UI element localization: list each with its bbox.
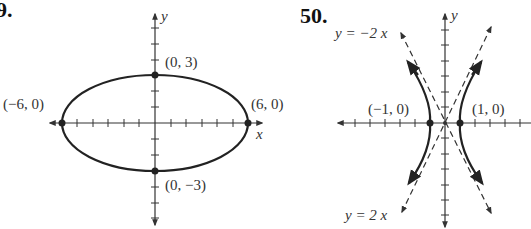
point-neg1-0 [427, 120, 434, 127]
origin-marker [443, 121, 447, 125]
point-0-3 [152, 72, 159, 79]
asymptote-label-neg2x: y = −2 x [333, 25, 388, 41]
point-neg6-0 [59, 120, 66, 127]
point-0-neg3 [152, 168, 159, 175]
figure-ellipse: 9. [0, 0, 284, 225]
figure-canvas: 9. [0, 0, 531, 229]
asymptote-label-2x: y = 2 x [343, 207, 388, 223]
label-neg1-0: (−1, 0) [368, 101, 409, 118]
label-6-0: (6, 0) [251, 96, 284, 113]
y-axis-label: y [159, 8, 168, 24]
label-neg6-0: (−6, 0) [3, 96, 44, 113]
label-0-3: (0, 3) [165, 54, 198, 71]
figure-hyperbola: 50. [300, 3, 531, 227]
figure-number: 50. [300, 3, 328, 28]
point-6-0 [245, 120, 252, 127]
point-1-0 [457, 120, 464, 127]
figure-number: 9. [0, 0, 13, 22]
y-axis-label: y [449, 7, 458, 23]
label-1-0: (1, 0) [472, 101, 505, 118]
label-0-neg3: (0, −3) [165, 177, 206, 194]
x-axis-label: x [255, 126, 263, 142]
